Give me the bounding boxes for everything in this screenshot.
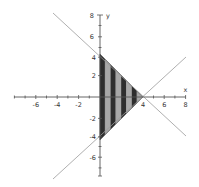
svg-text:8: 8 [90, 12, 94, 20]
svg-text:-2: -2 [75, 101, 81, 109]
svg-text:6: 6 [90, 33, 94, 41]
svg-text:-2: -2 [90, 115, 96, 123]
x-axis-label: x [184, 86, 188, 94]
svg-text:2: 2 [92, 72, 96, 80]
svg-text:-4: -4 [54, 101, 60, 109]
coordinate-plane: -6 -4 -2 4 6 8 x 8 6 4 2 -2 -4 -6 y [0, 0, 199, 187]
y-axis-label: y [106, 12, 110, 20]
svg-text:-6: -6 [33, 101, 39, 109]
svg-text:-6: -6 [90, 154, 96, 162]
svg-text:-4: -4 [90, 133, 96, 141]
svg-text:6: 6 [162, 101, 166, 109]
svg-text:4: 4 [141, 101, 145, 109]
svg-text:4: 4 [92, 54, 96, 62]
svg-text:8: 8 [184, 101, 188, 109]
